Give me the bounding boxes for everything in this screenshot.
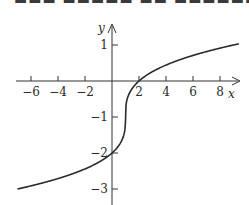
y-tick-label: −3: [90, 182, 108, 196]
x-tick-label: −4: [49, 85, 67, 99]
data-curve: [18, 44, 239, 189]
x-tick-label: 4: [162, 85, 170, 99]
y-tick-label: −1: [90, 110, 108, 124]
y-tick-label: 1: [100, 38, 108, 52]
x-axis-label: x: [228, 87, 235, 101]
x-tick-label: −2: [76, 85, 94, 99]
x-tick-label: 8: [216, 85, 224, 99]
x-tick-label: −6: [22, 85, 40, 99]
x-tick-label: 6: [189, 85, 197, 99]
x-axis-ticks: −6−4−22468: [22, 76, 224, 99]
chart: −6−4−22468 1−1−2−3 x y: [0, 0, 249, 205]
y-axis-ticks: 1−1−2−3: [90, 38, 118, 196]
y-axis: 1−1−2−3: [90, 24, 118, 205]
x-tick-label: 2: [135, 85, 143, 99]
y-axis-label: y: [97, 21, 105, 35]
